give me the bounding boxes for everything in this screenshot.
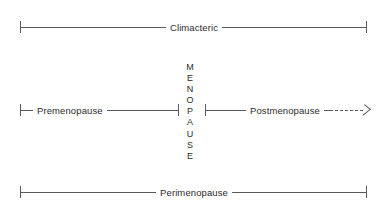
menopause-letter-7: U [187,129,194,140]
climacteric-right-bracket-tick [366,21,367,33]
menopause-letter-6: A [187,117,193,128]
menopause-letter-9: E [187,151,193,162]
arrow-right-icon [357,104,371,115]
menopause-letter-5: P [187,106,193,117]
menopause-letter-4: O [186,95,193,106]
menopause-letter-2: E [187,73,193,84]
climacteric-label: Climacteric [166,22,222,33]
menopause-letter-1: M [186,62,194,73]
perimenopause-right-bracket-tick [366,186,367,198]
menopause-event-label: M E N O P A U S E [183,60,197,164]
perimenopause-label: Perimenopause [156,187,232,198]
menopause-letter-8: S [187,140,193,151]
premenopause-right-bracket-tick [178,104,179,116]
menopause-stages-diagram: Climacteric Premenopause M E N O P A U S… [0,0,388,217]
menopause-letter-3: N [187,84,194,95]
premenopause-label: Premenopause [33,105,107,116]
postmenopause-label: Postmenopause [246,105,324,116]
